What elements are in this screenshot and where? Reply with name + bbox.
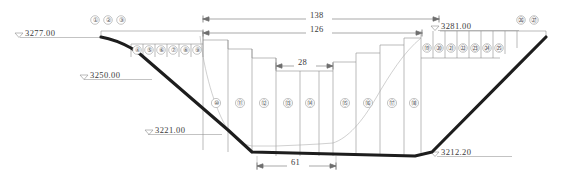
segment-label-11: ⑪ (237, 99, 243, 107)
segment-label-12: ⑫ (261, 99, 267, 107)
inner-curve-lines (200, 36, 421, 146)
segment-label-2: ② (106, 16, 111, 23)
drawing-canvas: 3277.00 3250.00 3221.00 3281.00 3212.20 … (0, 0, 562, 189)
segment-numbers-top-left: ① ② ③ (91, 16, 126, 25)
segment-label-26: ㉖ (518, 16, 524, 24)
segment-label-7: ⑦ (171, 46, 176, 53)
triangle-down-icon-3250 (80, 75, 88, 80)
arrow-left-126 (203, 30, 209, 37)
segment-label-21: ㉑ (448, 44, 454, 52)
elevation-label-3250: 3250.00 (90, 70, 120, 80)
cross-section-drawing: 3277.00 3250.00 3221.00 3281.00 3212.20 … (0, 0, 562, 189)
ground-profile-line (101, 37, 546, 156)
elevation-markers (15, 26, 439, 157)
segment-label-25: ㉕ (496, 44, 502, 52)
segment-label-15: ⑮ (342, 99, 348, 107)
segment-label-14: ⑭ (307, 99, 313, 107)
segment-label-20: ⑳ (436, 44, 442, 52)
elevation-label-3277: 3277.00 (25, 28, 55, 38)
segment-label-1: ① (93, 16, 98, 23)
segment-label-9: ⑨ (195, 46, 200, 53)
dimension-138: 138 (202, 9, 440, 23)
segment-label-3: ③ (119, 16, 124, 23)
triangle-down-icon-3221 (145, 130, 153, 135)
segment-label-17: ⑰ (389, 99, 395, 107)
segment-numbers-center: ⑩ ⑪ ⑫ ⑬ ⑭ ⑮ ⑯ ⑰ ⑱ (211, 98, 418, 107)
triangle-down-icon-3277 (15, 33, 23, 38)
dimension-label-61: 61 (291, 157, 300, 167)
segment-label-22: ㉒ (460, 44, 466, 52)
segment-label-27: ㉗ (531, 16, 537, 24)
dimension-61: 61 (257, 156, 336, 170)
segment-numbers-top-right: ㉖ ㉗ (517, 16, 539, 25)
segment-label-23: ㉓ (472, 44, 478, 52)
triangle-down-icon-3281 (431, 26, 439, 31)
natural-ground-surface (101, 37, 546, 156)
segment-label-13: ⑬ (285, 99, 291, 107)
elevation-label-3221: 3221.00 (155, 125, 185, 135)
arrow-right-28 (327, 63, 333, 70)
segment-numbers-right-slope: ⑲ ⑳ ㉑ ㉒ ㉓ ㉔ ㉕ (423, 44, 504, 53)
segment-label-16: ⑯ (365, 99, 371, 107)
segment-label-8: ⑧ (183, 46, 188, 53)
dimension-label-138: 138 (310, 10, 324, 20)
segment-label-18: ⑱ (411, 99, 417, 107)
right-inner-curve (333, 38, 421, 143)
arrow-left-61 (257, 163, 263, 170)
segment-label-24: ㉔ (484, 44, 490, 52)
bottom-inner-curve (252, 143, 333, 146)
arrow-left-138 (203, 16, 209, 23)
dimension-126: 126 (202, 23, 423, 37)
segment-label-4: ④ (135, 46, 140, 53)
segment-label-6: ⑥ (159, 46, 164, 53)
arrow-right-61 (330, 163, 336, 170)
arrow-right-138 (433, 16, 439, 23)
segment-label-5: ⑤ (147, 46, 152, 53)
arrow-left-28 (276, 63, 282, 70)
dimension-28: 28 (276, 56, 333, 70)
dimension-label-28: 28 (298, 57, 307, 67)
elevation-label-3281: 3281.00 (441, 21, 471, 31)
segment-label-10: ⑩ (214, 99, 219, 106)
elevation-label-3212: 3212.20 (441, 147, 471, 157)
dimension-label-126: 126 (310, 24, 324, 34)
segment-label-19: ⑲ (424, 44, 430, 52)
